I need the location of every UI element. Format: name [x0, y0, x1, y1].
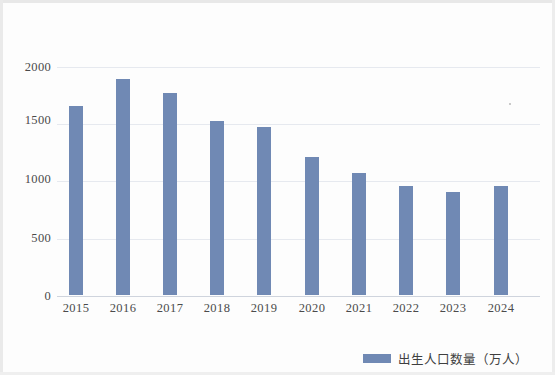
chart-legend[interactable]: 出生人口数量（万人）	[363, 349, 528, 368]
y-tick-label-500: 500	[5, 232, 51, 245]
x-tick-label-2017: 2017	[146, 302, 194, 315]
y-tick-label-0: 0	[5, 290, 51, 303]
y-tick-label-1500: 1500	[5, 114, 51, 127]
bar-2018[interactable]	[210, 121, 224, 295]
legend-label: 出生人口数量（万人）	[398, 349, 528, 368]
x-tick-label-2020: 2020	[288, 302, 336, 315]
bar-2022[interactable]	[399, 186, 413, 295]
plot-area	[57, 67, 540, 296]
bar-2021[interactable]	[352, 173, 366, 295]
bar-2019[interactable]	[257, 127, 271, 295]
x-tick-label-2016: 2016	[99, 302, 147, 315]
bar-2020[interactable]	[305, 157, 319, 295]
y-axis: 2000 1500 1000 500 0	[0, 0, 51, 375]
y-tick-label-1000: 1000	[5, 173, 51, 186]
x-tick-label-2019: 2019	[240, 302, 288, 315]
x-tick-label-2018: 2018	[193, 302, 241, 315]
gridline-baseline-0	[57, 296, 540, 297]
bar-2015[interactable]	[69, 106, 83, 295]
x-tick-label-2024: 2024	[477, 302, 525, 315]
bar-2017[interactable]	[163, 93, 177, 295]
y-tick-label-2000: 2000	[5, 61, 51, 74]
gridline-2000	[57, 67, 540, 68]
x-tick-label-2023: 2023	[429, 302, 477, 315]
x-tick-label-2021: 2021	[335, 302, 383, 315]
x-tick-label-2015: 2015	[52, 302, 100, 315]
bar-2023[interactable]	[446, 192, 460, 295]
bar-2024[interactable]	[494, 186, 508, 295]
x-tick-label-2022: 2022	[382, 302, 430, 315]
page-edge-top	[0, 0, 555, 3]
legend-swatch-icon	[363, 354, 391, 363]
birth-population-bar-chart: 2000 1500 1000 500 0 2015 2016 2017 2018…	[0, 0, 555, 375]
bar-2016[interactable]	[116, 79, 130, 295]
